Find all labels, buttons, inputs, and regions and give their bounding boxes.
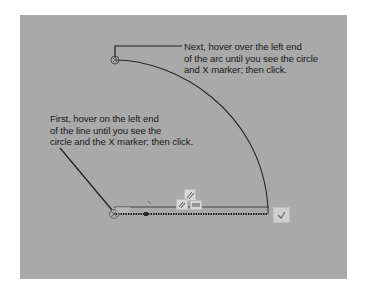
left-callout-line: First, hover on the left end [50,113,193,125]
top-callout-leader [115,46,182,58]
top-callout-line: and X marker; then click. [184,64,318,76]
top-callout-text: Next, hover over the left end of the arc… [184,41,318,76]
left-callout-text: First, hover on the left end of the line… [50,113,193,148]
endpoint-highlight [116,207,130,213]
top-callout-line: of the arc until you see the circle [184,53,318,65]
equal-constraint-icon[interactable] [176,199,188,210]
dimension-tick [148,201,151,204]
check-icon[interactable] [273,207,290,223]
midpoint-grip-icon[interactable] [144,212,148,216]
horizontal-constraint-icon[interactable] [190,200,202,210]
left-callout-line: circle and the X marker; then click. [50,136,193,148]
left-callout-leader [60,148,112,210]
left-callout-line: of the line until you see the [50,125,193,137]
top-callout-line: Next, hover over the left end [184,41,318,53]
